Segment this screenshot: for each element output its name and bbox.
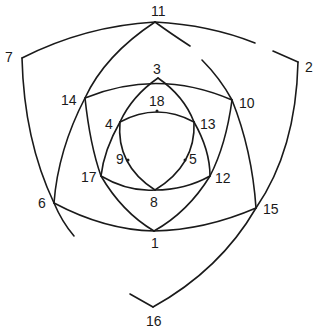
arc-11-14-6 (54, 22, 155, 203)
label-6: 6 (38, 196, 46, 210)
label-5: 5 (189, 152, 197, 166)
label-17: 17 (81, 170, 97, 184)
arc-16-left-stub (130, 294, 153, 307)
label-13: 13 (200, 117, 216, 131)
point-18 (156, 110, 159, 113)
arc-17-8-12 (101, 176, 210, 190)
label-18: 18 (149, 94, 165, 108)
arc-7-11 (22, 22, 155, 58)
label-2: 2 (305, 60, 313, 74)
label-10: 10 (239, 96, 255, 110)
point-9 (127, 159, 130, 162)
arc-4-18-13 (120, 112, 194, 122)
label-3: 3 (153, 62, 161, 76)
label-15: 15 (263, 202, 279, 216)
label-16: 16 (146, 314, 162, 328)
arc-2-stub (273, 51, 298, 62)
arc-4-9-8 (120, 122, 155, 190)
vertex-arc-diagram (0, 0, 320, 336)
label-4: 4 (105, 117, 113, 131)
point-5 (184, 159, 187, 162)
label-14: 14 (61, 93, 77, 107)
label-11: 11 (151, 4, 166, 18)
label-7: 7 (5, 50, 13, 64)
label-12: 12 (215, 171, 231, 185)
label-8: 8 (150, 195, 158, 209)
label-1: 1 (151, 236, 159, 250)
label-9: 9 (116, 152, 124, 166)
